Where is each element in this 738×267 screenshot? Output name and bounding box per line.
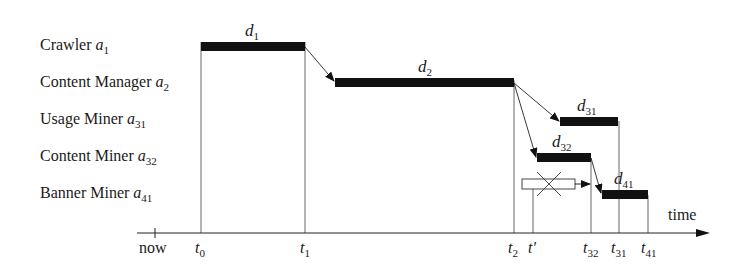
tick-label-t41: t41 xyxy=(641,240,656,256)
agent-label-crawler: Crawler a1 xyxy=(40,37,109,53)
agent-label-content-miner: Content Miner a32 xyxy=(40,148,157,164)
agent-label-usage-miner: Usage Miner a31 xyxy=(40,111,146,127)
duration-label-d41: d41 xyxy=(614,170,634,187)
duration-label-d32: d32 xyxy=(552,133,572,150)
axis-label-time: time xyxy=(668,207,696,223)
tick-label-t-prime: t′ xyxy=(528,240,536,256)
timeline-diagram xyxy=(0,0,738,267)
bar-d1 xyxy=(201,42,305,51)
tick-label-t32: t32 xyxy=(583,240,598,256)
bar-d2 xyxy=(335,78,514,87)
tick-label-t2: t2 xyxy=(508,240,518,256)
tick-label-t1: t1 xyxy=(300,240,310,256)
bar-d31 xyxy=(560,117,618,126)
time-axis-arrowhead xyxy=(696,229,710,237)
bar-d32 xyxy=(537,153,591,162)
axis-label-now: now xyxy=(139,240,167,256)
agent-label-banner-miner: Banner Miner a41 xyxy=(40,185,152,201)
tick-label-t0: t0 xyxy=(195,240,205,256)
duration-label-d1: d1 xyxy=(245,22,259,39)
dependency-arrows xyxy=(305,47,601,193)
duration-label-d2: d2 xyxy=(418,58,432,75)
agent-label-content-manager: Content Manager a2 xyxy=(40,74,169,90)
bar-d41 xyxy=(602,190,648,199)
duration-label-d31: d31 xyxy=(577,97,597,114)
tick-label-t31: t31 xyxy=(611,240,626,256)
